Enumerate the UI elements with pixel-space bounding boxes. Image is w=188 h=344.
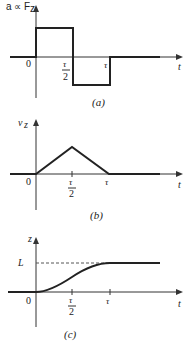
- tick-label-tau-half-num: τ: [69, 295, 73, 305]
- tick-label-tau: τ: [106, 296, 110, 306]
- x-axis-label: t: [178, 179, 181, 190]
- panel-a: a ∝ F z 0 τ 2 τ t (a): [6, 1, 183, 109]
- tick-label-tau: τ: [105, 177, 109, 187]
- tick-label-tau-half-num: τ: [63, 59, 67, 69]
- series-line-b: [10, 147, 160, 174]
- x-arrow-icon: [176, 289, 183, 295]
- tick-label-tau-half-den: 2: [69, 188, 74, 199]
- caption-b: (b): [90, 209, 103, 222]
- y-axis-subscript: z: [30, 3, 35, 14]
- x-arrow-icon: [176, 171, 183, 177]
- tick-label-0: 0: [26, 176, 31, 187]
- tick-label-tau-half-den: 2: [63, 71, 68, 82]
- caption-c: (c): [64, 328, 77, 341]
- series-line-c: [8, 263, 160, 292]
- panel-b: v z 0 τ 2 τ t (b): [10, 117, 183, 222]
- tick-label-tau-half-den: 2: [69, 306, 74, 317]
- tick-label-tau-half-num: τ: [69, 177, 73, 187]
- y-tick-label-L: L: [17, 257, 24, 268]
- y-axis-label: v: [18, 117, 23, 128]
- y-axis-label: z: [27, 233, 32, 244]
- x-axis-label: t: [178, 298, 181, 309]
- y-axis-label: a ∝ F: [6, 1, 30, 12]
- y-arrow-icon: [33, 119, 39, 126]
- panel-c: z L 0 τ 2 τ t (c): [8, 233, 183, 341]
- tick-label-0: 0: [26, 58, 31, 69]
- y-axis-subscript: z: [23, 119, 28, 130]
- caption-a: (a): [92, 96, 105, 109]
- tick-label-tau: τ: [104, 60, 108, 70]
- y-arrow-icon: [33, 237, 39, 244]
- x-arrow-icon: [176, 54, 183, 60]
- figure: a ∝ F z 0 τ 2 τ t (a) v z 0 τ 2 τ t (b): [0, 0, 188, 344]
- tick-label-0: 0: [26, 295, 31, 306]
- x-axis-label: t: [178, 61, 181, 72]
